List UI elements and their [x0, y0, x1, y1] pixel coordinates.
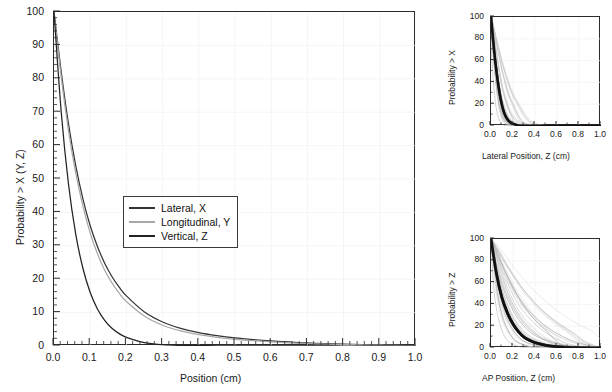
y-tick-label: 100	[444, 11, 484, 21]
bottom-right-y-axis-title: Probability > Z	[447, 272, 457, 327]
bottom-right-x-axis-title: AP Position, Z (cm)	[482, 373, 555, 383]
y-tick-label: 80	[444, 254, 484, 264]
legend-label: Lateral, X	[161, 202, 206, 214]
x-tick-label: 1.0	[570, 129, 612, 139]
legend-item: Vertical, Z	[129, 229, 230, 243]
legend-label: Vertical, Z	[161, 230, 208, 242]
legend-label: Longitudinal, Y	[161, 216, 230, 228]
top-right-y-axis-title: Probability > X	[447, 50, 457, 105]
main-legend: Lateral, XLongitudinal, YVertical, Z	[123, 196, 238, 248]
main-chart-panel: 0.00.10.20.30.40.50.60.70.80.91.0 010203…	[0, 0, 430, 392]
top-right-chart-panel: 0.00.20.40.60.81.0 020406080100 Lateral …	[430, 0, 612, 180]
bottom-right-chart-panel: 0.00.20.40.60.81.0 020406080100 AP Posit…	[430, 210, 612, 392]
y-tick-label: 0	[444, 120, 484, 130]
main-y-axis-title: Probability > X (Y, Z)	[14, 149, 26, 245]
y-tick-label: 10	[4, 305, 44, 317]
legend-swatch	[129, 235, 155, 237]
legend-item: Lateral, X	[129, 201, 230, 215]
y-tick-label: 0	[4, 339, 44, 351]
y-tick-label: 70	[4, 105, 44, 117]
y-tick-label: 20	[4, 272, 44, 284]
y-tick-label: 90	[4, 38, 44, 50]
y-tick-label: 100	[4, 5, 44, 17]
y-tick-label: 100	[444, 233, 484, 243]
x-tick-label: 1.0	[570, 351, 612, 361]
legend-item: Longitudinal, Y	[129, 215, 230, 229]
main-x-axis-title: Position (cm)	[180, 372, 241, 384]
y-tick-label: 80	[444, 32, 484, 42]
y-tick-label: 80	[4, 71, 44, 83]
legend-swatch	[129, 221, 155, 223]
y-tick-label: 0	[444, 342, 484, 352]
top-right-x-axis-title: Lateral Position, Z (cm)	[482, 151, 570, 161]
legend-swatch	[129, 207, 155, 209]
